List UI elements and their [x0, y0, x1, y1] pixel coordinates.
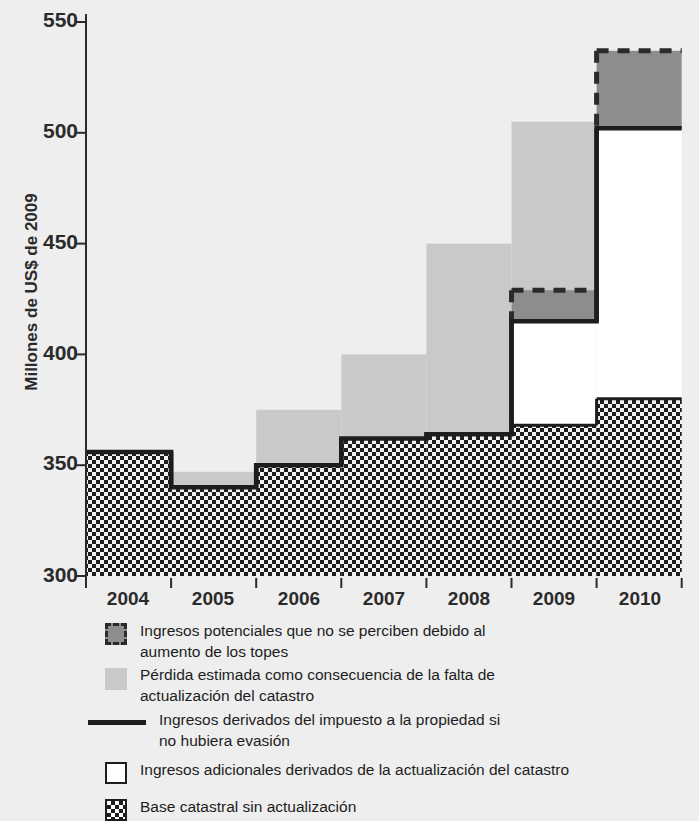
y-tick-marks	[76, 22, 86, 576]
area-base-catastral	[512, 425, 597, 576]
area-topes	[512, 290, 597, 321]
area-base-catastral	[171, 487, 256, 576]
area-base-catastral	[341, 439, 426, 576]
x-tick-marks	[86, 578, 682, 588]
legend-item-topes[interactable]: Ingresos potenciales que no se perciben …	[105, 620, 486, 662]
area-perdida-catastro	[256, 410, 341, 465]
legend-item-adicionales[interactable]: Ingresos adicionales derivados de la act…	[105, 759, 569, 784]
legend-item-perdida[interactable]: Pérdida estimada como consecuencia de la…	[105, 664, 495, 706]
area-perdida-catastro	[341, 354, 426, 438]
x-tick-2006: 2006	[256, 588, 342, 610]
area-perdida-catastro	[512, 122, 597, 290]
legend-label-base-catastral: Base catastral sin actualización	[140, 796, 356, 817]
area-base-catastral	[426, 434, 511, 576]
light-gray-swatch-icon	[105, 668, 127, 690]
area-topes	[597, 51, 682, 129]
area-ingresos-adicionales	[512, 321, 597, 425]
area-perdida-catastro	[171, 472, 256, 488]
solid-line-swatch-icon	[88, 720, 146, 725]
dashed-dark-gray-swatch-icon	[105, 623, 127, 645]
x-tick-2008: 2008	[426, 588, 512, 610]
legend-label-topes: Ingresos potenciales que no se perciben …	[140, 620, 486, 662]
area-perdida-catastro	[426, 244, 511, 435]
legend-item-sin-evasion[interactable]: Ingresos derivados del impuesto a la pro…	[88, 709, 500, 751]
x-tick-2009: 2009	[511, 588, 597, 610]
legend-item-base-catastral[interactable]: Base catastral sin actualización	[105, 796, 356, 821]
chart-plot-area	[0, 0, 699, 600]
checkered-box-swatch-icon	[105, 799, 127, 821]
legend-label-sin-evasion: Ingresos derivados del impuesto a la pro…	[159, 709, 500, 751]
area-base-catastral	[597, 399, 682, 576]
x-tick-2005: 2005	[170, 588, 256, 610]
area-base-catastral	[256, 465, 341, 576]
white-box-swatch-icon	[105, 762, 127, 784]
x-tick-2007: 2007	[341, 588, 427, 610]
x-tick-2010: 2010	[597, 588, 683, 610]
x-tick-2004: 2004	[85, 588, 171, 610]
legend-label-adicionales: Ingresos adicionales derivados de la act…	[140, 759, 569, 780]
legend-label-perdida: Pérdida estimada como consecuencia de la…	[140, 664, 495, 706]
chart-legend: Ingresos potenciales que no se perciben …	[0, 618, 699, 818]
area-base-catastral	[86, 452, 171, 576]
area-ingresos-adicionales	[597, 128, 682, 398]
